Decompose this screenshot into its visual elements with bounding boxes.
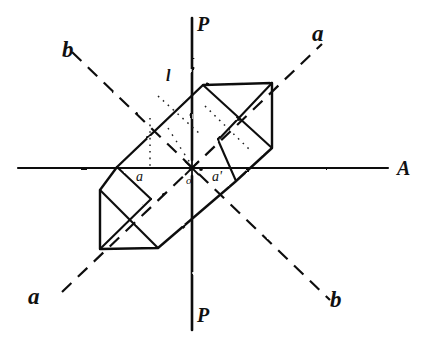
label-axis-p-top: P xyxy=(197,14,209,34)
label-axis-b-lower-right: b xyxy=(330,288,342,311)
label-axis-b-upper-left: b xyxy=(62,38,74,61)
label-axis-p-bottom: P xyxy=(197,305,209,325)
label-point-a-prime-right: a' xyxy=(212,170,222,184)
label-axis-a-upper-right: a xyxy=(312,22,324,45)
label-axis-a-right: A xyxy=(397,158,410,178)
label-point-origin: o xyxy=(186,175,192,186)
label-axis-a-lower-left: a xyxy=(28,285,40,308)
crystal-diagram-figure: P P A a a b b l a o a' xyxy=(0,0,422,347)
construction-line-1 xyxy=(158,96,200,134)
facet-edge-ll-diagonal-2 xyxy=(100,199,151,249)
facet-edge-ur-diagonal-2 xyxy=(218,83,272,140)
label-edge-l-top: l xyxy=(166,68,170,84)
facet-edge-ll-diagonal-3 xyxy=(117,167,151,199)
label-point-a-left: a xyxy=(136,170,143,184)
